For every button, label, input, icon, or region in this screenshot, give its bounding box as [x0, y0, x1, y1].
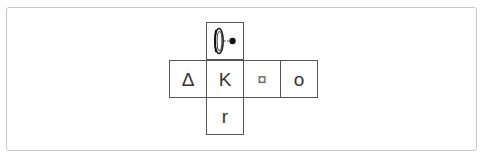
currency-sign-symbol: ¤ — [257, 71, 266, 88]
cube-face-right: ¤ — [243, 60, 281, 98]
cube-face-left: Δ — [169, 60, 207, 98]
ring-with-dot-icon — [210, 25, 240, 57]
cube-face-bottom: r — [206, 97, 244, 135]
letter-k: K — [219, 70, 232, 89]
cube-face-far-right: o — [280, 60, 318, 98]
cube-face-center: K — [206, 60, 244, 98]
letter-r: r — [222, 107, 228, 126]
cube-face-top — [206, 22, 244, 60]
letter-o: o — [294, 70, 305, 89]
delta-symbol: Δ — [182, 70, 195, 89]
